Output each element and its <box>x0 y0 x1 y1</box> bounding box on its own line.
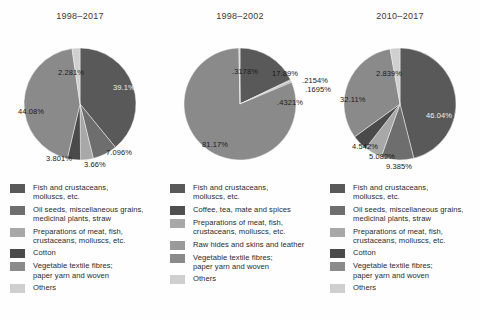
legend-item[interactable]: Oil seeds, miscellaneous grains,medicina… <box>10 205 162 224</box>
legend-label-line1: Vegetable textile fibres; <box>353 261 433 270</box>
legend-label-line1: Coffee, tea, mate and spices <box>193 205 291 214</box>
clipped-header-text <box>0 0 480 7</box>
legend-item[interactable]: Coffee, tea, mate and spices <box>170 205 322 215</box>
legend-swatch-others <box>10 284 25 293</box>
chart-title: 1998–2002 <box>160 11 320 22</box>
legend-item[interactable]: Vegetable textile fibres;paper yarn and … <box>10 261 162 280</box>
legend-swatch-fish <box>10 184 25 193</box>
slice-value-label: 2.281% <box>58 69 84 77</box>
chart-title: 1998–2017 <box>0 11 160 22</box>
legend-swatch-coffee <box>170 206 185 215</box>
legend-swatch-cotton <box>330 249 345 258</box>
legend-item[interactable]: Others <box>170 274 322 284</box>
legend-label-line2: crustaceans, molluscs, etc. <box>193 227 286 236</box>
legend-label-line1: Vegetable textile fibres; <box>193 253 273 262</box>
legend-item[interactable]: Fish and crustaceans,molluscs, etc. <box>170 183 322 202</box>
legend-label: Others <box>353 283 376 292</box>
legend-label-line2: molluscs, etc. <box>193 192 268 201</box>
legend-item[interactable]: Cotton <box>330 248 480 258</box>
slice-value-label: 81.17% <box>202 141 228 149</box>
slice-value-label: 9.385% <box>386 163 412 171</box>
legend-label: Cotton <box>353 248 376 257</box>
legend-label: Others <box>33 283 56 292</box>
legend-swatch-fish <box>170 184 185 193</box>
legend-item[interactable]: Cotton <box>10 248 162 258</box>
legend-item[interactable]: Others <box>10 283 162 293</box>
legend-label-line1: Preparations of meat, fish, <box>353 227 443 236</box>
legend-swatch-oilseeds <box>330 206 345 215</box>
slice-value-label: 44.08% <box>18 108 44 116</box>
slice-value-label: 5.082% <box>369 153 395 161</box>
pie-slices <box>320 22 480 162</box>
chart-column-1: 1998–201739.1%7.096%3.66%3.801%44.08%2.2… <box>0 7 160 319</box>
pie-slices <box>0 22 160 162</box>
pie-chart-columns: 1998–201739.1%7.096%3.66%3.801%44.08%2.2… <box>0 7 480 319</box>
legend-swatch-vegtextile <box>10 262 25 271</box>
legend-swatch-cotton <box>10 249 25 258</box>
legend-swatch-preparations <box>10 228 25 237</box>
legend-label-line2: paper yarn and woven <box>353 271 433 280</box>
chart-title: 2010–2017 <box>320 11 480 22</box>
legend-label: Vegetable textile fibres;paper yarn and … <box>353 261 433 280</box>
chart-column-2: 1998–200217.89%.2154%.1695%.4321%81.17%.… <box>160 7 320 319</box>
legend-swatch-others <box>330 284 345 293</box>
slice-value-label: 4.542% <box>352 143 378 151</box>
legend-label-line1: Raw hides and skins and leather <box>193 240 304 249</box>
legend-item[interactable]: Oil seeds, miscellaneous grains,medicina… <box>330 205 480 224</box>
legend-label-line1: Vegetable textile fibres; <box>33 261 113 270</box>
legend-label: Preparations of meat, fish,crustaceans, … <box>353 227 446 246</box>
slice-value-label: 17.89% <box>272 70 298 78</box>
slice-value-label: 7.096% <box>106 149 132 157</box>
slice-value-label: 3.66% <box>84 161 106 169</box>
legend-label-line2: medicinal plants, straw <box>33 214 144 223</box>
pie-chart: 46.04%9.385%5.082%4.542%32.11%2.839% <box>320 22 480 162</box>
chart-legend: Fish and crustaceans,molluscs, etc.Oil s… <box>330 183 480 296</box>
legend-item[interactable]: Preparations of meat, fish,crustaceans, … <box>170 218 322 237</box>
legend-item[interactable]: Vegetable textile fibres;paper yarn and … <box>170 253 322 272</box>
legend-label: Oil seeds, miscellaneous grains,medicina… <box>353 205 464 224</box>
legend-swatch-oilseeds <box>10 206 25 215</box>
figure-root: 1998–201739.1%7.096%3.66%3.801%44.08%2.2… <box>0 0 480 319</box>
legend-label-line1: Others <box>193 274 216 283</box>
legend-label: Preparations of meat, fish,crustaceans, … <box>33 227 126 246</box>
legend-label: Vegetable textile fibres;paper yarn and … <box>193 253 273 272</box>
legend-item[interactable]: Fish and crustaceans,molluscs, etc. <box>330 183 480 202</box>
legend-label: Coffee, tea, mate and spices <box>193 205 291 214</box>
legend-label-line1: Preparations of meat, fish, <box>33 227 123 236</box>
legend-item[interactable]: Preparations of meat, fish,crustaceans, … <box>330 227 480 246</box>
legend-label-line2: medicinal plants, straw <box>353 214 464 223</box>
slice-value-label: 32.11% <box>340 96 365 104</box>
legend-label-line2: crustaceans, molluscs, etc. <box>353 236 446 245</box>
legend-item[interactable]: Vegetable textile fibres;paper yarn and … <box>330 261 480 280</box>
slice-value-label: .3178% <box>232 68 258 76</box>
legend-label-line2: paper yarn and woven <box>193 262 273 271</box>
legend-swatch-preparations <box>330 228 345 237</box>
legend-label-line2: molluscs, etc. <box>353 192 428 201</box>
slice-value-label: 3.801% <box>46 155 72 163</box>
legend-swatch-vegtextile <box>170 254 185 263</box>
legend-label-line1: Others <box>353 283 376 292</box>
legend-item[interactable]: Raw hides and skins and leather <box>170 240 322 250</box>
legend-label: Others <box>193 274 216 283</box>
legend-label: Fish and crustaceans,molluscs, etc. <box>353 183 428 202</box>
legend-item[interactable]: Fish and crustaceans,molluscs, etc. <box>10 183 162 202</box>
legend-swatch-preparations <box>170 219 185 228</box>
legend-label: Fish and crustaceans,molluscs, etc. <box>33 183 108 202</box>
legend-label: Cotton <box>33 248 56 257</box>
legend-label-line1: Preparations of meat, fish, <box>193 218 283 227</box>
legend-label-line1: Cotton <box>353 248 376 257</box>
legend-label-line2: crustaceans, molluscs, etc. <box>33 236 126 245</box>
pie-chart: 17.89%.2154%.1695%.4321%81.17%.3178% <box>160 22 320 162</box>
legend-item[interactable]: Preparations of meat, fish,crustaceans, … <box>10 227 162 246</box>
slice-value-label: 39.1% <box>113 84 135 92</box>
legend-label-line1: Fish and crustaceans, <box>33 183 108 192</box>
legend-label-line1: Others <box>33 283 56 292</box>
legend-item[interactable]: Others <box>330 283 480 293</box>
legend-swatch-vegtextile <box>330 262 345 271</box>
pie-chart: 39.1%7.096%3.66%3.801%44.08%2.281% <box>0 22 160 162</box>
legend-label-line1: Oil seeds, miscellaneous grains, <box>33 205 144 214</box>
pie-slices <box>160 22 320 162</box>
slice-value-label: 46.04% <box>426 112 452 120</box>
legend-swatch-fish <box>330 184 345 193</box>
legend-label-line1: Oil seeds, miscellaneous grains, <box>353 205 464 214</box>
